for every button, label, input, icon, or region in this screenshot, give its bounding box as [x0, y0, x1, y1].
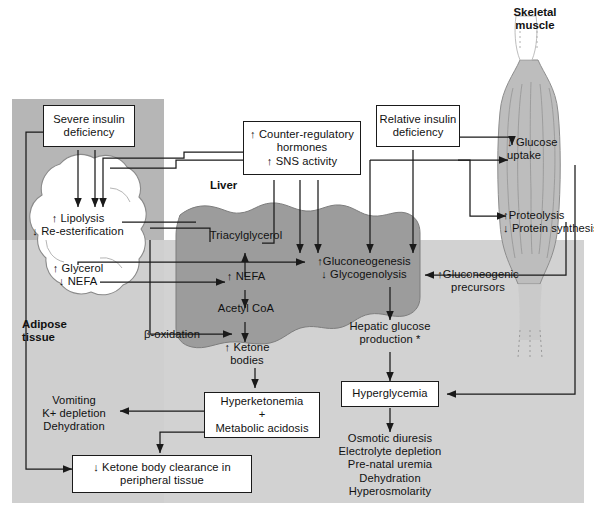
node-gluconeogenesis: ↑Gluconeogenesis ↓ Glycogenolysis [305, 255, 423, 281]
outcome-list-right: Osmotic diuresis Electrolyte depletion P… [330, 432, 450, 498]
box-hyperketonemia[interactable]: Hyperketonemia + Metabolic acidosis [204, 392, 320, 438]
box-counter-regulatory-hormones[interactable]: ↑ Counter-regulatory hormones ↑ SNS acti… [243, 121, 361, 175]
node-ketone-bodies: ↑ Ketone bodies [216, 341, 278, 367]
liver-title: Liver [210, 179, 270, 192]
node-glucose-uptake: ↓ Glucose uptake [507, 136, 573, 162]
node-nefa-liver: ↑ NEFA [216, 270, 276, 283]
node-gluconeogenic-precursors: ↑Gluconeogenic precursors [430, 268, 526, 294]
node-beta-oxidation: β-oxidation [135, 328, 209, 341]
box-severe-insulin-deficiency[interactable]: Severe insulin deficiency [43, 105, 135, 147]
box-hyperglycemia[interactable]: Hyperglycemia [341, 381, 439, 407]
box-relative-insulin-deficiency[interactable]: Relative insulin deficiency [376, 105, 460, 147]
adipose-tissue-title: Adipose tissue [22, 318, 102, 345]
diagram-canvas: Skeletal muscle Liver Adipose tissue Sev… [0, 0, 594, 511]
outcome-list-left: Vomiting K+ depletion Dehydration [26, 394, 122, 434]
node-triacylglycerol: Triacylglycerol [206, 229, 286, 242]
skeletal-muscle-title: Skeletal muscle [490, 6, 580, 33]
node-lipolysis: ↑ Lipolysis ↓ Re-esterification [16, 212, 140, 238]
node-hepatic-glucose-production: Hepatic glucose production * [344, 320, 436, 346]
node-acetyl-coa: Acetyl CoA [210, 302, 282, 315]
node-glycerol-nefa: ↑ Glycerol ↓ NEFA [30, 262, 126, 288]
node-proteolysis: ↑Proteolysis ↓ Protein synthesis [503, 209, 594, 235]
box-ketone-body-clearance[interactable]: ↓ Ketone body clearance in peripheral ti… [72, 455, 252, 493]
